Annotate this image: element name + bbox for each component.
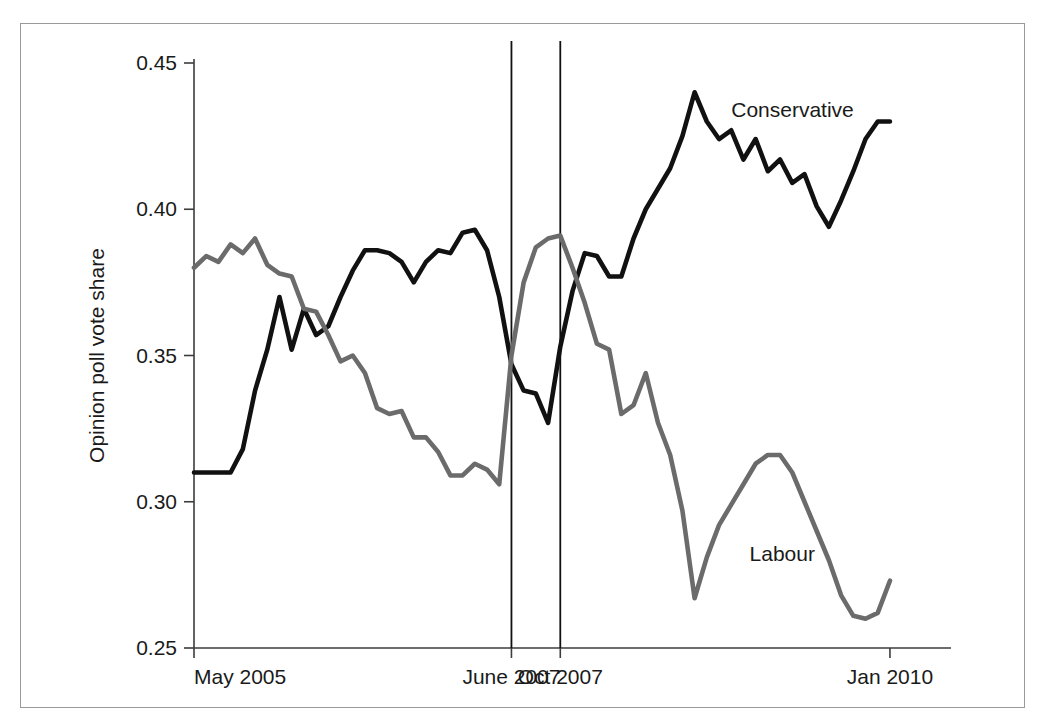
x-tick-label: May 2005	[194, 665, 286, 688]
series-annotation-labour: Labour	[750, 542, 815, 565]
series-line-conservative	[194, 92, 890, 472]
y-tick-label: 0.45	[136, 51, 177, 74]
axes	[184, 59, 951, 658]
x-tick-label: Jan 2010	[847, 665, 933, 688]
y-tick-label: 0.40	[136, 197, 177, 220]
y-tick-label: 0.30	[136, 490, 177, 513]
opinion-poll-line-chart: 0.250.300.350.400.45 May 2005June 2007Oc…	[21, 24, 1026, 709]
y-tick-label: 0.25	[136, 636, 177, 659]
x-axis-tick-labels: May 2005June 2007Oct 2007Jan 2010	[194, 665, 933, 688]
figure-frame: 0.250.300.350.400.45 May 2005June 2007Oc…	[20, 23, 1025, 708]
y-axis-tick-labels: 0.250.300.350.400.45	[136, 51, 177, 659]
y-tick-label: 0.35	[136, 344, 177, 367]
chart-page: 0.250.300.350.400.45 May 2005June 2007Oc…	[0, 0, 1046, 726]
event-reference-lines	[511, 41, 560, 648]
y-axis-title: Opinion poll vote share	[85, 248, 108, 463]
series-lines	[194, 92, 890, 619]
series-annotations: ConservativeLabour	[731, 98, 854, 566]
x-tick-label: Oct 2007	[518, 665, 603, 688]
series-annotation-conservative: Conservative	[731, 98, 854, 121]
